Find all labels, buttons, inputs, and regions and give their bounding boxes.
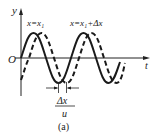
dashed-curve-label: x=x₁+Δx xyxy=(70,19,103,28)
solid-curve-label: x=x₁ xyxy=(27,19,44,28)
shift-arrow-left-icon xyxy=(54,87,59,90)
y-axis-label: y xyxy=(12,5,17,16)
origin-label: O xyxy=(8,54,16,65)
t-axis-label: t xyxy=(145,61,148,71)
shift-arrow-right-icon xyxy=(67,87,72,90)
y-axis-arrow-icon xyxy=(19,8,23,15)
figure-caption: (a) xyxy=(58,122,69,132)
shift-denominator: u xyxy=(62,109,67,119)
wave-diagram: y O t x=x₁ x=x₁+Δx Δx u (a) xyxy=(0,0,162,139)
shift-numerator: Δx xyxy=(57,96,67,106)
